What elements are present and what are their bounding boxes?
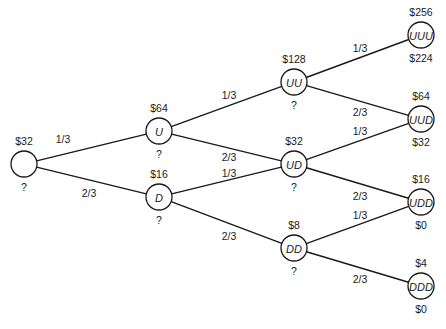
probability-label: 2/3 xyxy=(222,230,237,242)
node-uuu: UUU$256$224 xyxy=(408,6,434,64)
probability-label: 1/3 xyxy=(56,133,71,145)
probability-label: 1/3 xyxy=(222,89,237,101)
probability-label: 1/3 xyxy=(353,42,368,54)
node-ud: UD$32? xyxy=(281,135,307,193)
payoff-label: $224 xyxy=(409,52,433,64)
price-label: $32 xyxy=(285,135,303,147)
payoff-label: $32 xyxy=(412,136,430,148)
payoff-label: $0 xyxy=(415,303,427,315)
node-dd: DD$8? xyxy=(281,219,307,277)
price-label: $256 xyxy=(409,6,433,18)
node-uud: UUD$64$32 xyxy=(408,90,434,148)
edges-layer: 1/32/31/32/31/32/31/32/31/32/31/32/3 xyxy=(37,40,409,285)
edge-root-U xyxy=(37,134,147,161)
node-label: D xyxy=(155,192,163,204)
probability-label: 1/3 xyxy=(353,209,368,221)
binomial-tree-diagram: 1/32/31/32/31/32/31/32/31/32/31/32/3 $32… xyxy=(0,0,446,329)
node-label: UDD xyxy=(409,197,433,209)
payoff-label: $0 xyxy=(415,219,427,231)
price-label: $128 xyxy=(282,53,306,65)
unknown-value-label: ? xyxy=(291,265,297,277)
unknown-value-label: ? xyxy=(156,214,162,226)
probability-label: 1/3 xyxy=(222,167,237,179)
price-label: $16 xyxy=(150,168,168,180)
price-label: $64 xyxy=(412,90,430,102)
unknown-value-label: ? xyxy=(156,148,162,160)
node-uu: UU$128? xyxy=(281,53,307,111)
node-circle xyxy=(11,151,37,177)
node-ddd: DDD$4$0 xyxy=(408,257,434,315)
node-label: U xyxy=(155,126,163,138)
probability-label: 1/3 xyxy=(353,125,368,137)
price-label: $16 xyxy=(412,173,430,185)
unknown-value-label: ? xyxy=(291,181,297,193)
node-label: UD xyxy=(286,159,302,171)
price-label: $8 xyxy=(288,219,300,231)
node-label: DD xyxy=(286,243,302,255)
probability-label: 2/3 xyxy=(82,187,97,199)
node-u: U$64? xyxy=(146,102,172,160)
node-label: DDD xyxy=(409,281,433,293)
node-label: UU xyxy=(286,77,302,89)
node-root: $32? xyxy=(11,135,37,193)
probability-label: 2/3 xyxy=(222,151,237,163)
price-label: $4 xyxy=(415,257,427,269)
unknown-value-label: ? xyxy=(291,99,297,111)
probability-label: 2/3 xyxy=(353,190,368,202)
price-label: $32 xyxy=(15,135,33,147)
probability-label: 2/3 xyxy=(353,106,368,118)
probability-label: 2/3 xyxy=(353,273,368,285)
node-d: D$16? xyxy=(146,168,172,226)
node-label: UUU xyxy=(409,30,433,42)
price-label: $64 xyxy=(150,102,168,114)
node-label: UUD xyxy=(409,114,433,126)
unknown-value-label: ? xyxy=(21,181,27,193)
node-udd: UDD$16$0 xyxy=(408,173,434,231)
